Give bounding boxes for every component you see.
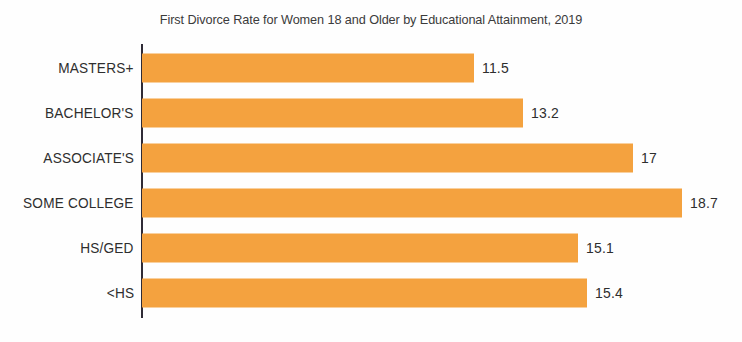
bar-bachelors[interactable] — [142, 98, 523, 127]
bar-associates[interactable] — [142, 143, 633, 172]
bar-chart-figure: First Divorce Rate for Women 18 and Olde… — [0, 0, 742, 342]
category-label: HS/GED — [81, 239, 134, 257]
bar-hs-ged[interactable] — [142, 233, 578, 262]
value-label: 13.2 — [531, 104, 559, 122]
category-label: SOME COLLEGE — [23, 194, 134, 212]
value-label: 15.1 — [586, 239, 614, 257]
category-label: BACHELOR'S — [45, 104, 134, 122]
bar-row: HS/GED 15.1 — [0, 225, 742, 270]
value-label: 11.5 — [482, 59, 509, 77]
bar-row: MASTERS+ 11.5 — [0, 45, 742, 90]
bar-row: BACHELOR'S 13.2 — [0, 90, 742, 135]
bar-fill — [142, 98, 523, 127]
bar-fill — [142, 143, 633, 172]
bar-some-college[interactable] — [142, 188, 682, 217]
category-label: ASSOCIATE'S — [43, 149, 134, 167]
chart-title: First Divorce Rate for Women 18 and Olde… — [22, 12, 719, 27]
bar-less-than-hs[interactable] — [142, 278, 587, 307]
category-label: <HS — [107, 284, 134, 302]
plot-area: MASTERS+ 11.5 BACHELOR'S 13.2 ASSOCIATE'… — [0, 44, 742, 324]
bar-fill — [142, 53, 474, 82]
bar-row: SOME COLLEGE 18.7 — [0, 180, 742, 225]
bar-row: <HS 15.4 — [0, 270, 742, 315]
bar-fill — [142, 278, 587, 307]
category-label: MASTERS+ — [59, 59, 134, 77]
bar-row: ASSOCIATE'S 17 — [0, 135, 742, 180]
value-label: 15.4 — [595, 284, 623, 302]
bar-masters-plus[interactable] — [142, 53, 474, 82]
bar-fill — [142, 188, 682, 217]
value-label: 18.7 — [690, 194, 718, 212]
bar-fill — [142, 233, 578, 262]
value-label: 17 — [641, 149, 657, 167]
